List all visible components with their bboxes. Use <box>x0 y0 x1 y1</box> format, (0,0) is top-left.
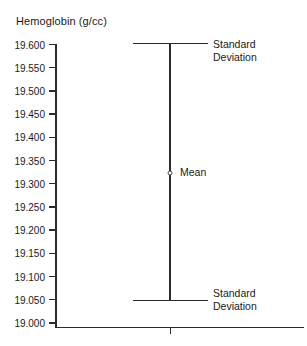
annotation-upper-sd-line1: Standard <box>213 38 257 52</box>
y-axis-line <box>55 44 57 328</box>
y-axis-tick <box>49 44 55 45</box>
annotation-lower-sd-line1: Standard <box>213 287 257 301</box>
y-axis-tick-label: 19.150 <box>14 248 45 259</box>
y-axis-tick-label: 19.600 <box>14 39 45 50</box>
y-axis-tick <box>49 299 55 300</box>
chart-container: Hemoglobin (g/cc) 19.60019.55019.50019.4… <box>0 0 307 346</box>
y-axis-tick <box>49 137 55 138</box>
errorbar-upper-cap <box>133 43 208 45</box>
y-axis-tick-label: 19.050 <box>14 294 45 305</box>
mean-marker-icon <box>168 171 173 176</box>
y-axis-tick-label: 19.450 <box>14 109 45 120</box>
y-axis-tick <box>49 253 55 254</box>
y-axis-tick <box>49 113 55 114</box>
y-axis-tick <box>49 206 55 207</box>
y-axis-tick-label: 19.550 <box>14 62 45 73</box>
errorbar-lower-cap <box>133 300 208 302</box>
y-axis-tick-label: 19.100 <box>14 271 45 282</box>
y-axis-tick-label: 19.000 <box>14 317 45 328</box>
y-axis-tick-label: 19.200 <box>14 225 45 236</box>
x-axis-tick <box>170 328 171 334</box>
y-axis-tick-label: 19.400 <box>14 132 45 143</box>
y-axis-tick <box>49 183 55 184</box>
annotation-mean: Mean <box>180 166 206 179</box>
annotation-lower-sd: Standard Deviation <box>213 287 257 314</box>
annotation-upper-sd-line2: Deviation <box>213 51 257 65</box>
y-axis-tick <box>49 67 55 68</box>
annotation-lower-sd-line2: Deviation <box>213 300 257 314</box>
annotation-upper-sd: Standard Deviation <box>213 38 257 65</box>
y-axis-tick <box>49 322 55 323</box>
y-axis-tick-label: 19.250 <box>14 201 45 212</box>
y-axis-tick-label: 19.350 <box>14 155 45 166</box>
y-axis-tick <box>49 160 55 161</box>
y-axis-tick <box>49 90 55 91</box>
y-axis-tick-label: 19.500 <box>14 85 45 96</box>
x-axis-line <box>55 327 304 329</box>
y-axis-tick <box>49 276 55 277</box>
plot-area: 19.60019.55019.50019.45019.40019.35019.3… <box>0 0 307 346</box>
y-axis-tick <box>49 229 55 230</box>
y-axis-tick-label: 19.300 <box>14 178 45 189</box>
